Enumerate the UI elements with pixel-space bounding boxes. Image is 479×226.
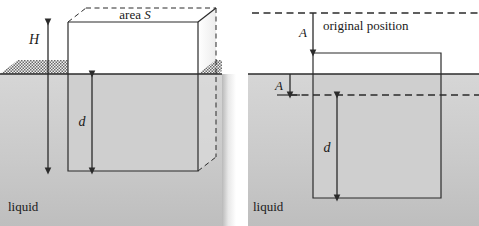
- depth-d-label-left: d: [79, 114, 87, 129]
- figure-canvas: H d area S liquid: [0, 0, 479, 226]
- height-H-label: H: [28, 32, 40, 47]
- equilibrium-panel: H d area S liquid: [0, 7, 236, 226]
- area-s-symbol: S: [144, 7, 151, 22]
- block-front-face-above-left: [68, 22, 198, 74]
- block-side-face-submerged-left: [198, 60, 216, 171]
- area-s-text: area: [119, 7, 144, 22]
- displacement-A-label-top: A: [298, 25, 307, 40]
- panel-gutter-shadow: [222, 74, 236, 226]
- liquid-label-right: liquid: [253, 199, 284, 214]
- displacement-A-label-bottom: A: [274, 78, 283, 93]
- submerged-block-right: [313, 74, 441, 198]
- physics-figure: H d area S liquid: [0, 0, 479, 226]
- liquid-label-left: liquid: [8, 199, 39, 214]
- original-position-label: original position: [323, 18, 409, 33]
- depth-d-label-right: d: [324, 140, 332, 155]
- area-s-label: area S: [119, 7, 151, 22]
- submerged-block-left: [68, 74, 198, 171]
- block-above-liquid-right: [313, 53, 441, 74]
